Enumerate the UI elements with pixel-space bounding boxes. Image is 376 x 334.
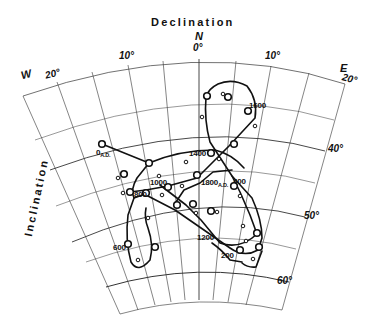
declination-tick-e10: 10° (265, 50, 280, 61)
century-points (99, 93, 263, 254)
north-label: N (195, 30, 203, 42)
age-label-1600: 1600 (249, 101, 266, 110)
declination-tick-w10: 10° (119, 50, 134, 61)
age-label-1000: 1000 (150, 178, 167, 187)
declination-tick-0: 0° (193, 42, 203, 53)
inclination-tick-50: 50° (304, 210, 319, 221)
declination-axis-title: Declination (151, 16, 235, 28)
age-label-800: 800 (134, 190, 147, 199)
inclination-tick-60: 60° (277, 275, 292, 286)
secular-variation-diagram (0, 0, 376, 334)
inclination-grid-arcs (23, 62, 345, 314)
inclination-tick-40: 40° (328, 143, 343, 154)
age-label-1800ad: 1800A.D. (201, 178, 228, 188)
age-label-400: 400 (233, 177, 246, 186)
age-label-1200: 1200 (197, 233, 214, 242)
age-label-600: 600 (113, 243, 126, 252)
age-label-0ad: 0A.D. (96, 148, 110, 158)
age-label-1400: 1400 (189, 149, 206, 158)
age-label-200: 200 (221, 251, 234, 260)
